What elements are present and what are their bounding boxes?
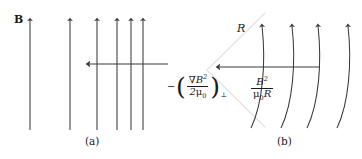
panel-a-field-lines (30, 20, 143, 130)
numerator-symbol: B (256, 76, 263, 87)
formula-fraction: B2 μ0R (250, 76, 274, 102)
numerator-exponent: 2 (264, 75, 268, 83)
formula-paren-close: ) (210, 77, 220, 98)
formula-minus-sign: − (167, 82, 176, 92)
radius-guide-upper (207, 13, 265, 70)
perpendicular-subscript: ⊥ (220, 92, 227, 100)
field-arc-2 (281, 26, 294, 128)
panel-b-force-formula: B2 μ0R (250, 76, 274, 102)
panel-b-caption: (b) (277, 136, 292, 147)
field-arc-4 (337, 26, 350, 128)
denominator-mu-subscript: 0 (202, 92, 206, 100)
field-arc-3 (307, 26, 320, 128)
panel-b-radius-guides (207, 13, 265, 127)
radius-label: R (237, 23, 245, 34)
nabla-symbol: ∇ (189, 74, 196, 85)
formula-numerator: ∇B2 (187, 74, 209, 86)
formula-numerator: B2 (254, 76, 270, 88)
denominator-radius-symbol: R (264, 88, 272, 99)
magnetic-field-label: B (14, 14, 23, 25)
panel-a-caption: (a) (85, 136, 99, 147)
formula-denominator: μ0R (251, 88, 273, 102)
formula-fraction: ∇B2 2μ0 (186, 74, 210, 100)
physics-figure-magnetic-force: B R − ( ∇B2 2μ0 ) ⊥ B2 μ0R (a) (b) (0, 0, 362, 159)
formula-denominator: 2μ0 (187, 86, 208, 100)
panel-a-force-formula: − ( ∇B2 2μ0 ) ⊥ (167, 74, 227, 100)
numerator-exponent: 2 (203, 73, 207, 81)
numerator-symbol: B (196, 74, 203, 85)
formula-paren-open: ( (176, 77, 186, 98)
